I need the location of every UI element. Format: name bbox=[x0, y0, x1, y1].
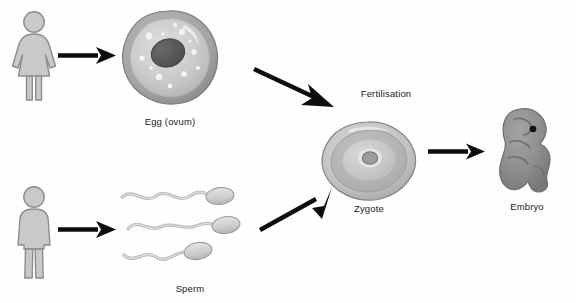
sperm-cell-1 bbox=[122, 186, 235, 206]
arrow-egg-to-zygote bbox=[252, 66, 336, 112]
reproduction-diagram: Egg (ovum) Fertilisation bbox=[0, 0, 576, 303]
sperm-cells bbox=[118, 183, 258, 281]
arrow-female-to-egg bbox=[58, 45, 118, 67]
male-leg-left-icon bbox=[25, 249, 33, 278]
fertilisation-label: Fertilisation bbox=[340, 88, 432, 99]
arrow-zygote-to-embryo bbox=[428, 141, 488, 163]
female-leg-left-icon bbox=[27, 76, 33, 100]
male-torso-icon bbox=[18, 209, 50, 249]
cut-off-header-text bbox=[96, 0, 396, 4]
arrow-male-to-sperm bbox=[58, 219, 118, 241]
sperm-cell-2 bbox=[128, 215, 241, 236]
egg-cell bbox=[118, 8, 222, 108]
embryo-eye-icon bbox=[530, 126, 537, 133]
zygote-label: Zygote bbox=[330, 203, 408, 214]
female-head-icon bbox=[24, 12, 44, 32]
sperm-head-icon bbox=[183, 240, 213, 261]
male-head-icon bbox=[24, 187, 44, 207]
female-figure bbox=[8, 10, 60, 102]
sperm-head-icon bbox=[205, 186, 235, 206]
egg-label: Egg (ovum) bbox=[120, 116, 220, 127]
female-leg-right-icon bbox=[36, 76, 42, 100]
embryo-body-icon bbox=[500, 109, 550, 192]
female-dress-icon bbox=[13, 34, 56, 76]
male-leg-right-icon bbox=[35, 249, 43, 278]
embryo-figure bbox=[490, 106, 564, 198]
sperm-label: Sperm bbox=[150, 283, 230, 294]
male-figure bbox=[8, 185, 60, 281]
embryo-label: Embryo bbox=[487, 201, 567, 212]
zygote-nucleus-icon bbox=[362, 152, 377, 164]
zygote-cell bbox=[318, 120, 420, 202]
sperm-head-icon bbox=[211, 215, 241, 236]
sperm-cell-3 bbox=[124, 240, 213, 261]
